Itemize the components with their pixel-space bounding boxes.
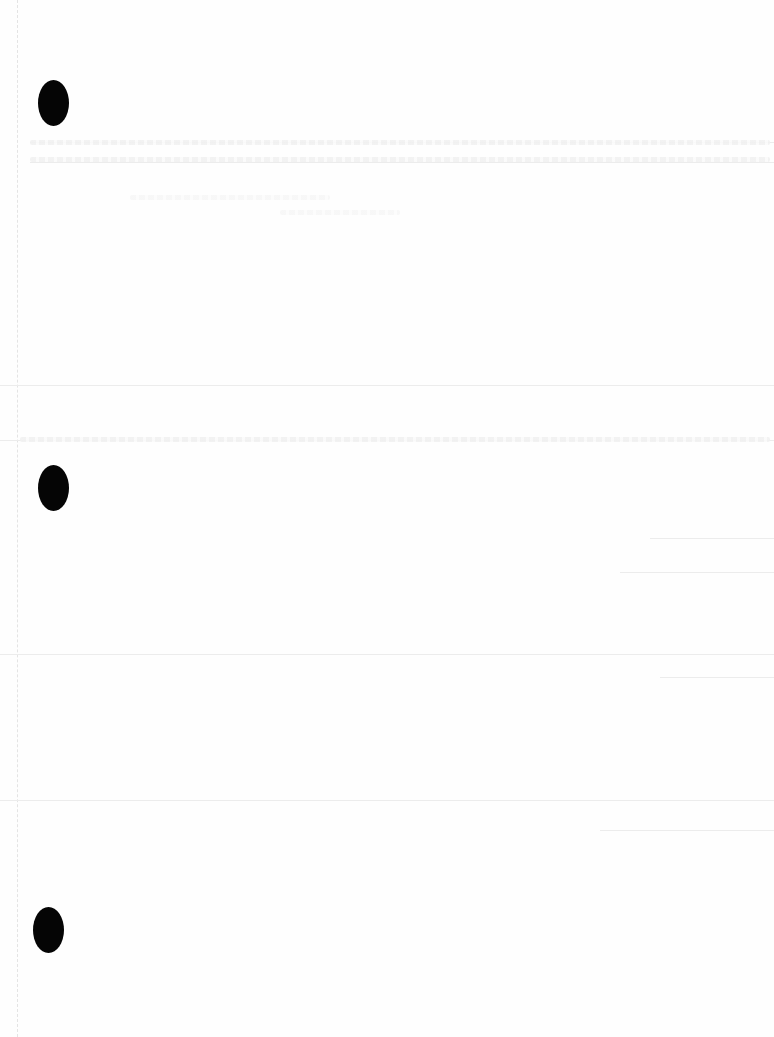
shadow-line	[600, 830, 774, 831]
bleed-through-text	[20, 437, 770, 442]
bleed-through-text	[130, 195, 330, 200]
bleed-through-text	[280, 210, 400, 215]
bleed-through-text	[30, 157, 770, 162]
punch-hole-middle	[38, 465, 69, 511]
punch-hole-top	[38, 80, 69, 126]
bleed-through-text	[30, 140, 770, 145]
shadow-line	[620, 572, 774, 573]
scanned-page	[0, 0, 774, 1037]
shadow-line	[0, 800, 774, 801]
shadow-line	[660, 677, 774, 678]
punch-hole-bottom	[33, 907, 64, 953]
shadow-line	[0, 654, 774, 655]
shadow-line	[30, 162, 774, 163]
margin-line	[17, 0, 18, 1037]
shadow-line	[650, 538, 774, 539]
shadow-line	[0, 385, 774, 386]
